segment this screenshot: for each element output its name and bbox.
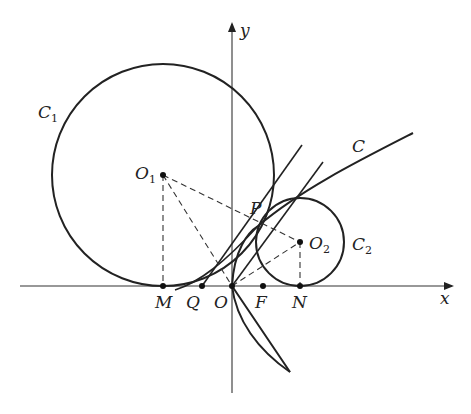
point-q	[199, 283, 205, 289]
point-p-label: P	[249, 198, 262, 218]
point-o	[229, 283, 235, 289]
curve-c2-label: C2	[352, 234, 372, 257]
curve-c-label: C	[352, 136, 365, 156]
y-axis-label: y	[239, 20, 250, 40]
tangent-arc-c1	[175, 226, 258, 290]
point-q-label: Q	[186, 292, 200, 312]
point-m	[160, 283, 166, 289]
point-o2	[297, 239, 303, 245]
geometry-diagram: x y C C1 C2 O1 O2 P M Q O F N	[0, 0, 471, 414]
point-f-label: F	[254, 292, 268, 312]
point-o2-label: O2	[309, 233, 330, 256]
point-o-label: O	[214, 292, 228, 312]
segment-o-o2	[232, 242, 300, 286]
segment-o1-o	[163, 175, 232, 286]
point-o1-label: O1	[135, 163, 156, 186]
point-o1	[160, 172, 166, 178]
curve-c1-label: C1	[38, 102, 58, 125]
point-n	[297, 283, 303, 289]
point-m-label: M	[154, 292, 173, 312]
point-n-label: N	[291, 292, 308, 312]
x-axis-label: x	[440, 288, 450, 308]
point-f	[260, 283, 266, 289]
